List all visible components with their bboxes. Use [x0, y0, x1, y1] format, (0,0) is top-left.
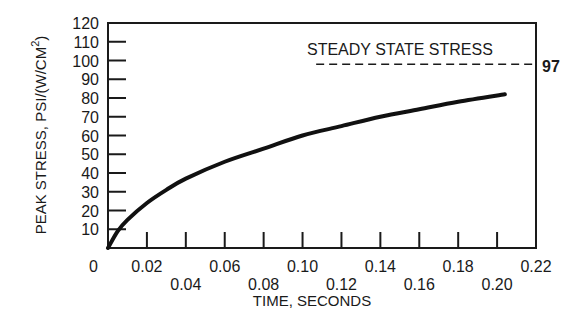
reference-label: STEADY STATE STRESS	[307, 41, 493, 58]
reference-value: 97	[542, 58, 560, 75]
y-tick-label: 50	[81, 146, 99, 163]
y-axis-title: PEAK STRESS, PSI/(W/CM2)	[29, 36, 49, 235]
y-tick-label: 90	[81, 71, 99, 88]
y-tick-label: 120	[72, 15, 99, 32]
x-tick-label: 0.04	[170, 276, 201, 293]
x-axis-ticks: 0.020.040.060.080.100.120.140.160.180.20…	[131, 232, 551, 293]
y-axis-ticks: 0102030405060708090100110120	[72, 15, 126, 275]
y-tick-label: 20	[81, 203, 99, 220]
x-tick-label: 0.20	[482, 276, 513, 293]
y-tick-label: 100	[72, 53, 99, 70]
x-tick-label: 0.08	[248, 276, 279, 293]
x-tick-label: 0.18	[443, 258, 474, 275]
y-tick-label: 0	[89, 258, 98, 275]
chart: PEAK STRESS, PSI/(W/CM2) 010203040506070…	[0, 0, 574, 328]
x-axis-title: TIME, SECONDS	[253, 292, 371, 309]
x-tick-label: 0.12	[326, 276, 357, 293]
y-tick-label: 10	[81, 221, 99, 238]
x-tick-label: 0.14	[365, 258, 396, 275]
y-tick-label: 110	[73, 34, 99, 51]
steady-state-reference: STEADY STATE STRESS97	[307, 41, 560, 75]
y-tick-label: 80	[81, 90, 99, 107]
y-tick-label: 70	[81, 109, 99, 126]
x-tick-label: 0.10	[287, 258, 318, 275]
peak-stress-curve	[108, 94, 505, 248]
y-tick-label: 60	[81, 128, 99, 145]
x-tick-label: 0.22	[520, 258, 551, 275]
y-tick-label: 40	[81, 165, 99, 182]
x-tick-label: 0.16	[404, 276, 435, 293]
x-tick-label: 0.06	[209, 258, 240, 275]
x-tick-label: 0.02	[131, 258, 162, 275]
svg-text:PEAK STRESS, PSI/(W/CM2): PEAK STRESS, PSI/(W/CM2)	[29, 36, 49, 235]
y-tick-label: 30	[81, 184, 99, 201]
